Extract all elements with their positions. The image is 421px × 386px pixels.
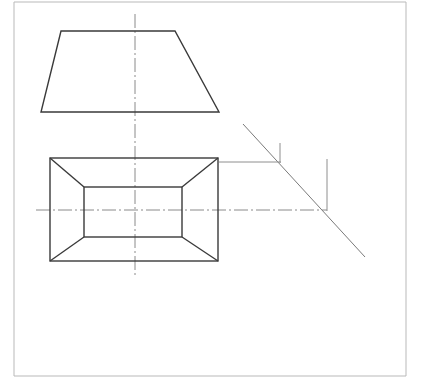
sheet-background bbox=[0, 0, 421, 386]
drawing-canvas bbox=[0, 0, 421, 386]
technical-drawing-sheet: Orthographic projection of a truncated p… bbox=[0, 0, 421, 386]
